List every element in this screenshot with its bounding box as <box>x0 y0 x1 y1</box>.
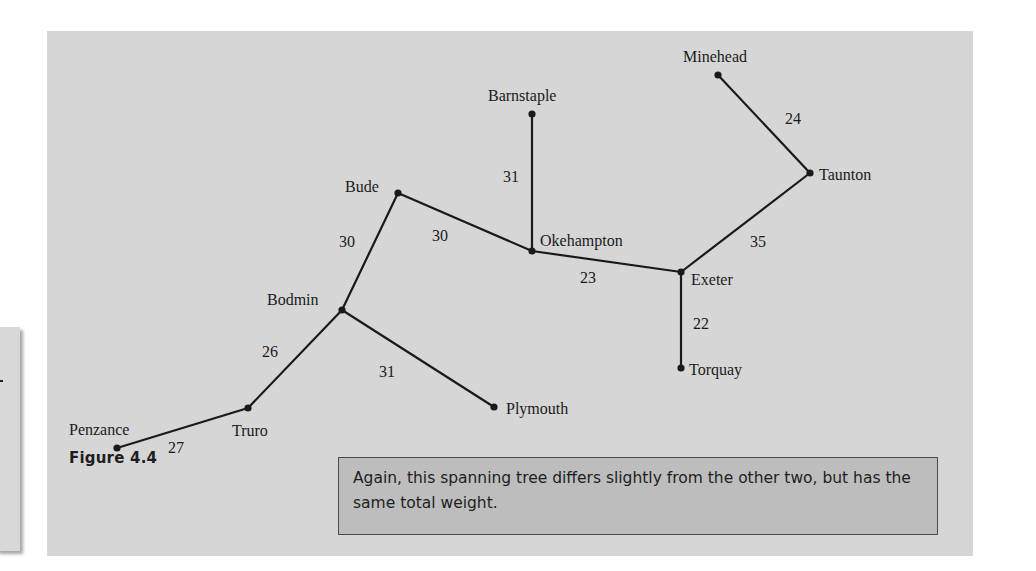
note-callout: Again, this spanning tree differs slight… <box>338 457 938 535</box>
node-label-okehampton: Okehampton <box>540 232 623 250</box>
edge-taunton-exeter <box>681 173 810 272</box>
node-taunton <box>806 169 813 176</box>
edge-weight-label: 26 <box>262 343 278 360</box>
edge-weight-label: 30 <box>432 227 448 244</box>
edge-bude-okehampton <box>398 193 532 251</box>
edge-weight-label: 30 <box>339 233 355 250</box>
edge-weight-label: 31 <box>379 363 395 380</box>
node-truro <box>244 404 251 411</box>
node-label-minehead: Minehead <box>683 48 747 65</box>
node-label-bude: Bude <box>345 178 379 195</box>
node-label-barnstaple: Barnstaple <box>488 87 556 105</box>
edge-bude-bodmin <box>342 193 398 310</box>
edge-okehampton-exeter <box>532 251 681 272</box>
node-label-taunton: Taunton <box>819 166 871 183</box>
node-minehead <box>714 71 721 78</box>
node-plymouth <box>490 403 497 410</box>
edge-weight-label: 27 <box>168 439 184 456</box>
node-label-torquay: Torquay <box>689 361 742 379</box>
node-label-plymouth: Plymouth <box>506 400 568 418</box>
node-label-truro: Truro <box>232 422 268 439</box>
figure-caption: Figure 4.4 <box>69 449 157 467</box>
node-barnstaple <box>528 110 535 117</box>
graph-nodes <box>113 71 813 451</box>
node-torquay <box>677 364 684 371</box>
node-label-penzance: Penzance <box>69 421 129 438</box>
edge-weight-label: 31 <box>503 168 519 185</box>
edge-weight-label: 23 <box>580 269 596 286</box>
edge-bodmin-plymouth <box>342 310 494 407</box>
node-label-exeter: Exeter <box>691 271 733 288</box>
graph-edges <box>117 75 810 448</box>
node-label-bodmin: Bodmin <box>267 291 319 308</box>
edge-weight-label: 24 <box>785 110 801 127</box>
node-okehampton <box>528 247 535 254</box>
node-bude <box>394 189 401 196</box>
edge-weight-label: 22 <box>693 315 709 332</box>
edge-weight-label: 35 <box>750 233 766 250</box>
node-bodmin <box>338 306 345 313</box>
note-text: Again, this spanning tree differs slight… <box>353 469 911 512</box>
node-exeter <box>677 268 684 275</box>
